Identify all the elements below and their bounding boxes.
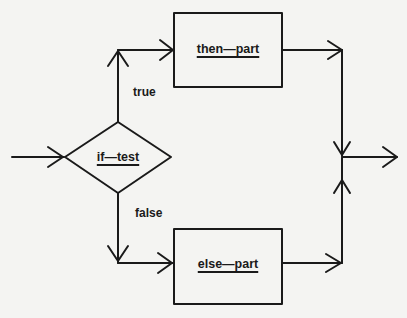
true-branch-arrow: [108, 40, 173, 122]
false-branch-arrow: [108, 193, 173, 273]
else-part-label: else—part: [198, 257, 258, 271]
else-exit-arrow: [282, 158, 350, 272]
if-test-label: if—test: [97, 150, 139, 164]
then-part-label: then—part: [197, 42, 260, 56]
false-edge-label: false: [135, 206, 162, 220]
then-exit-arrow: [282, 41, 350, 156]
exit-arrow: [342, 147, 397, 167]
entry-arrow: [12, 147, 64, 167]
true-edge-label: true: [133, 85, 156, 99]
